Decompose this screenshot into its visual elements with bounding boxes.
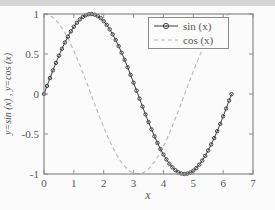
cos-line-sample-icon <box>153 34 179 46</box>
legend-item-sin: sin (x) <box>149 19 228 33</box>
legend-label-cos: cos (x) <box>183 34 213 46</box>
y-tick-label: -1 <box>30 168 39 180</box>
figure-root: 01234567-1-0.500.51 y=sin (x) , y=cos (x… <box>0 0 275 210</box>
y-tick-label: -0.5 <box>22 128 40 140</box>
x-tick-label: 5 <box>191 177 197 189</box>
sin-line-sample-icon <box>153 20 179 32</box>
x-tick-label: 0 <box>41 177 47 189</box>
x-tick-label: 6 <box>220 177 226 189</box>
legend-item-cos: cos (x) <box>149 33 228 47</box>
x-axis-label: x <box>123 188 173 203</box>
x-tick-label: 7 <box>250 177 256 189</box>
plot-canvas: 01234567-1-0.500.51 <box>0 0 275 210</box>
legend: sin (x) cos (x) <box>148 17 229 49</box>
x-tick-label: 1 <box>71 177 77 189</box>
legend-label-sin: sin (x) <box>183 20 211 32</box>
y-tick-label: 0.5 <box>25 48 39 60</box>
y-axis-label: y=sin (x) , y=cos (x) <box>2 19 16 169</box>
y-tick-label: 1 <box>34 8 40 20</box>
y-tick-label: 0 <box>34 88 40 100</box>
x-tick-label: 2 <box>101 177 107 189</box>
